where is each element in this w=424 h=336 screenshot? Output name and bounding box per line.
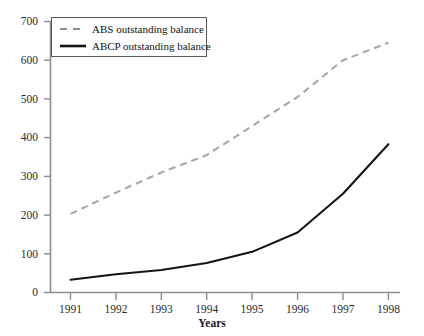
series-line-abs bbox=[71, 43, 389, 214]
x-tick-label-1996: 1996 bbox=[278, 303, 318, 315]
legend-item-abcp: ABCP outstanding balance bbox=[52, 37, 206, 55]
x-tick-label-1994: 1994 bbox=[187, 303, 227, 315]
y-tick-label-200: 200 bbox=[4, 209, 38, 221]
x-tick-label-1992: 1992 bbox=[96, 303, 136, 315]
y-tick-label-500: 500 bbox=[4, 93, 38, 105]
x-tick-label-1995: 1995 bbox=[232, 303, 272, 315]
chart-container: 700 600 500 400 300 200 100 0 1991 1992 … bbox=[0, 0, 424, 336]
y-tick-label-700: 700 bbox=[4, 15, 38, 27]
legend-label-abs: ABS outstanding balance bbox=[92, 23, 204, 35]
y-tick-label-0: 0 bbox=[4, 286, 38, 298]
y-tick-label-600: 600 bbox=[4, 54, 38, 66]
x-tick-label-1991: 1991 bbox=[51, 303, 91, 315]
y-tick-label-400: 400 bbox=[4, 131, 38, 143]
series-line-abcp bbox=[71, 144, 389, 280]
x-tick-label-1993: 1993 bbox=[141, 303, 181, 315]
x-axis-title: Years bbox=[0, 317, 424, 329]
dashed-line-swatch bbox=[59, 23, 87, 35]
x-tick-label-1998: 1998 bbox=[368, 303, 408, 315]
y-tick-label-300: 300 bbox=[4, 170, 38, 182]
x-tick-label-1997: 1997 bbox=[323, 303, 363, 315]
chart-legend: ABS outstanding balance ABCP outstanding… bbox=[51, 17, 207, 57]
y-tick-label-100: 100 bbox=[4, 248, 38, 260]
solid-line-swatch bbox=[59, 40, 87, 52]
legend-item-abs: ABS outstanding balance bbox=[52, 20, 206, 38]
legend-label-abcp: ABCP outstanding balance bbox=[92, 40, 211, 52]
